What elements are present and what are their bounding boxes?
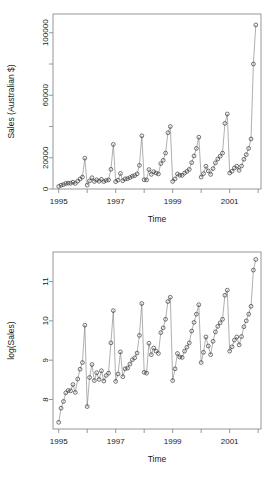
y-axis-title: Sales (Australian $) [6, 64, 16, 138]
sales-raw-plot: 020000600001000001995199719992001TimeSal… [0, 0, 271, 239]
x-tick-label: 1995 [50, 197, 68, 206]
y-tick-label: 10 [41, 316, 50, 325]
chart-panel-sales-log: 8910111995199719992001Timelog(Sales) [0, 240, 271, 479]
y-tick-label: 8 [41, 397, 50, 402]
y-tick-label: 11 [41, 277, 50, 286]
x-tick-label: 2001 [221, 197, 239, 206]
x-tick-label: 1997 [107, 437, 125, 446]
x-tick-label: 1997 [107, 197, 125, 206]
y-axis-title: log(Sales) [6, 321, 16, 359]
x-axis-title: Time [148, 214, 167, 224]
x-axis-title: Time [148, 454, 167, 464]
data-point [57, 185, 61, 189]
x-tick-label: 1999 [164, 197, 182, 206]
y-tick-label: 0 [41, 186, 50, 191]
chart-panel-sales-raw: 020000600001000001995199719992001TimeSal… [0, 0, 271, 239]
data-line [59, 259, 256, 422]
plot-frame [53, 252, 261, 429]
y-tick-label: 9 [41, 357, 50, 362]
x-tick-label: 1995 [50, 437, 68, 446]
data-line [59, 25, 256, 186]
x-tick-label: 2001 [221, 437, 239, 446]
y-tick-label: 20000 [41, 146, 50, 169]
sales-log-plot: 8910111995199719992001Timelog(Sales) [0, 240, 271, 479]
y-tick-label: 60000 [41, 84, 50, 107]
x-tick-label: 1999 [164, 437, 182, 446]
y-tick-label: 100000 [41, 19, 50, 46]
